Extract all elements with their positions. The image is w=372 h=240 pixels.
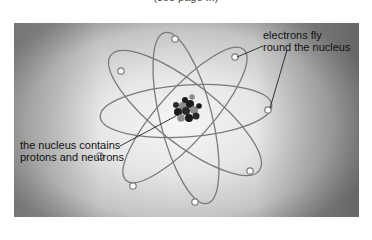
nucleus-icon <box>173 94 202 122</box>
leader-lines <box>120 46 287 146</box>
nucleus-label-line1: the nucleus contains <box>20 139 124 151</box>
electron-icon <box>192 199 198 205</box>
electrons-label: electrons fly round the nucleus <box>263 29 350 53</box>
electron-icon <box>172 36 178 42</box>
electrons <box>97 36 271 205</box>
electron-icon <box>118 68 124 74</box>
nucleus-label-line2: protons and neutrons <box>20 151 124 163</box>
electrons-label-line1: electrons fly <box>263 29 350 41</box>
orbit-diagonal-up <box>107 32 263 198</box>
electron-icon <box>247 168 253 174</box>
electron-icon <box>130 183 136 189</box>
electrons-leader-line <box>270 50 287 108</box>
electrons-label-line2: round the nucleus <box>263 41 350 53</box>
nucleus-label: the nucleus contains protons and neutron… <box>20 139 124 163</box>
